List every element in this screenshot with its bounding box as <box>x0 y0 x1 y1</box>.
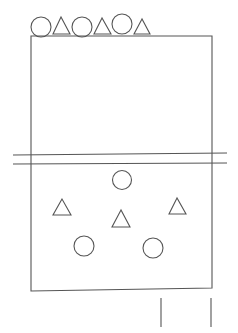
triangle-icon <box>53 17 70 34</box>
circle-icon <box>31 17 51 37</box>
triangle-icon <box>94 18 111 34</box>
circle-icon <box>112 14 132 34</box>
circle-icon <box>72 17 92 37</box>
triangle-icon <box>112 210 130 227</box>
circle-icon <box>113 171 132 190</box>
circle-icon <box>143 238 163 258</box>
divider-line-upper <box>13 153 227 155</box>
triangle-icon <box>134 19 150 34</box>
triangle-icon <box>169 198 186 214</box>
lower-formation <box>53 171 186 259</box>
divider-line-lower <box>13 163 227 164</box>
top-row <box>31 14 150 37</box>
field-diagram <box>0 0 238 333</box>
triangle-icon <box>53 199 71 215</box>
circle-icon <box>74 236 94 256</box>
